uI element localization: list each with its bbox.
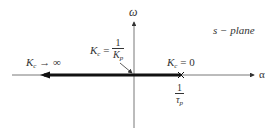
s-plane-label: s − plane [213,25,255,36]
omega-axis-label: ω [129,6,137,18]
kc-crossing-label: Kc = [90,45,109,58]
kc-crossing-fraction: 1 Kp [112,38,124,62]
locus-arrowhead-icon [40,72,50,79]
pole-location-label: 1 τp [175,83,184,107]
kc-infinity-label: Kc → ∞ [26,57,61,70]
alpha-axis-label: α [259,69,265,80]
crossing-pointer-arrow [120,63,132,73]
kc-zero-label: Kc = 0 [167,57,195,70]
